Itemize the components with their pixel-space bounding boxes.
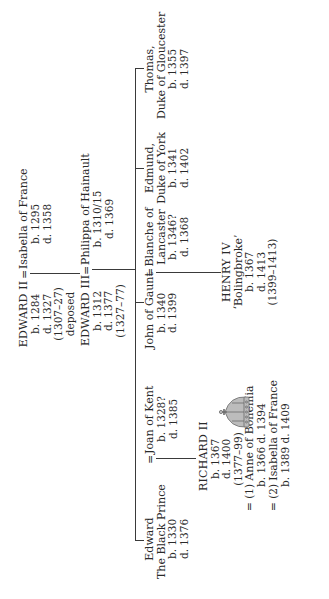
crown-icon xyxy=(218,393,252,431)
edmund-duke-of-york: Edmund, Duke of York b. 1341 d. 1402 xyxy=(144,132,190,204)
edward-iii: EDWARD III b. 1312 d. 1377 (1327–77) xyxy=(80,276,126,346)
richard-ii: RICHARD II b. 1367 d. 1400 (1377–99) xyxy=(198,427,244,491)
joan-of-kent-dates: b. 1328? d. 1385 xyxy=(156,394,179,444)
descent-line-richard xyxy=(156,458,196,459)
joan-of-kent: Joan of Kent xyxy=(144,384,156,454)
sibling-bar xyxy=(135,69,136,541)
henry-iv: HENRY IV ‘Bolingbroke’ b. 1367 d. 1413 (… xyxy=(221,227,279,317)
marriage-symbol-black-prince: = xyxy=(144,455,157,464)
edward-ii: EDWARD II xyxy=(18,279,30,349)
thomas-duke-of-gloucester: Thomas, Duke of Gloucester b. 1355 d. 13… xyxy=(144,19,190,119)
philippa-dates: b. 1310/15 d. 1369 xyxy=(92,189,115,249)
edward-ii-dates: b. 1284 d. 1327 (1307–27) deposed xyxy=(30,279,76,349)
isabella-of-france-gen1: Isabella of France xyxy=(18,159,30,269)
edward-the-black-prince: Edward The Black Prince b. 1330 d. 1376 xyxy=(144,499,190,579)
marriage-symbol-gen1: = xyxy=(18,270,31,279)
marriage-symbol-gen2: = xyxy=(80,266,93,275)
philippa-of-hainault: Philippa of Hainault xyxy=(80,145,92,265)
richard-marriage-2-dates: b. 1389 d. 1409 xyxy=(280,403,292,487)
descent-line-gen2 xyxy=(92,269,135,270)
richard-marriage-2: = (2) Isabella of France xyxy=(268,380,280,511)
descent-line-gen1 xyxy=(30,273,80,274)
isabella-dates: b. 1295 d. 1358 xyxy=(30,194,53,254)
richard-marriage-1-dates: b. 1366 d. 1394 xyxy=(256,403,268,487)
family-tree-diagram: EDWARD II = Isabella of France b. 1284 d… xyxy=(0,0,329,599)
blanche-of-lancaster: Blanche of Lancaster b. 1346? d. 1368 xyxy=(144,205,190,269)
john-of-gaunt: John of Gaunt b. 1340 d. 1399 xyxy=(144,277,179,349)
descent-line-henry xyxy=(156,272,221,273)
